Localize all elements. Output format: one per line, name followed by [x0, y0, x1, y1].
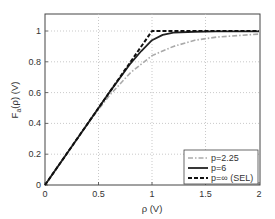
chart-canvas: 00.511.5200.20.40.60.81 ρ (V) Fa(ρ) (V) …	[0, 0, 275, 219]
x-tick-label: 0.5	[92, 189, 105, 199]
y-tick-label: 1	[36, 26, 41, 36]
legend: p=2.25 p=6 p=∞ (SEL)	[184, 150, 258, 184]
x-tick-label: 2	[256, 189, 261, 199]
y-tick-label: 0.8	[28, 57, 41, 67]
y-tick-label: 0	[36, 180, 41, 190]
legend-label-sel: p=∞ (SEL)	[211, 173, 253, 183]
y-tick-label: 0.4	[28, 118, 41, 128]
x-tick-label: 1	[149, 189, 154, 199]
y-axis-label-rest: (ρ) (V)	[9, 82, 20, 109]
y-axis-label: Fa(ρ) (V)	[9, 82, 22, 119]
y-tick-label: 0.6	[28, 88, 41, 98]
x-tick-label: 0	[42, 189, 47, 199]
y-tick-label: 0.2	[28, 149, 41, 159]
x-axis-label: ρ (V)	[142, 203, 163, 214]
x-tick-label: 1.5	[199, 189, 212, 199]
legend-label-p6: p=6	[211, 163, 226, 173]
legend-label-p225: p=2.25	[211, 153, 239, 163]
